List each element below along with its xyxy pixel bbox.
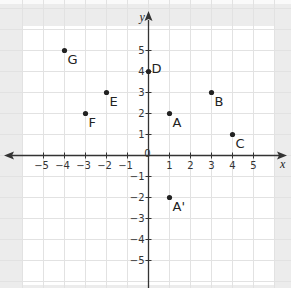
point-label: D bbox=[152, 61, 162, 76]
x-tick-label: −4 bbox=[55, 160, 70, 171]
x-tick-label: 1 bbox=[166, 160, 172, 171]
point-label: A bbox=[173, 115, 182, 130]
point-marker bbox=[209, 90, 214, 95]
point-label: C bbox=[236, 136, 245, 151]
coordinate-plane: xy −5−4−3−2−112345−5−4−3−2−1123450 ABCDE… bbox=[0, 0, 291, 288]
y-axis-label: y bbox=[139, 10, 146, 24]
point-marker bbox=[167, 111, 172, 116]
point-label: G bbox=[68, 52, 78, 67]
point-marker bbox=[104, 90, 109, 95]
y-tick-label: 4 bbox=[138, 66, 144, 77]
y-tick-label: 3 bbox=[138, 87, 144, 98]
y-tick-label: 2 bbox=[138, 108, 144, 119]
x-axis-label: x bbox=[279, 157, 286, 171]
x-tick-label: 3 bbox=[208, 160, 214, 171]
point-marker bbox=[167, 195, 172, 200]
point-label: B bbox=[215, 94, 224, 109]
x-tick-label: −1 bbox=[118, 160, 133, 171]
x-tick-label: −2 bbox=[97, 160, 112, 171]
x-tick-label: −5 bbox=[34, 160, 49, 171]
y-tick-label: −2 bbox=[130, 192, 145, 203]
point-marker bbox=[230, 132, 235, 137]
y-tick-label: −4 bbox=[130, 234, 145, 245]
x-tick-label: −3 bbox=[76, 160, 91, 171]
point-label: F bbox=[89, 115, 96, 130]
y-tick-label: 5 bbox=[138, 45, 144, 56]
point-label: A' bbox=[173, 199, 185, 214]
y-tick-label: −3 bbox=[130, 213, 145, 224]
y-tick-label: 1 bbox=[138, 129, 144, 140]
x-tick-label: 4 bbox=[229, 160, 235, 171]
x-tick-label: 2 bbox=[187, 160, 193, 171]
point-marker bbox=[146, 69, 151, 74]
point-label: E bbox=[110, 94, 118, 109]
origin-label: 0 bbox=[144, 148, 150, 159]
point-marker bbox=[83, 111, 88, 116]
x-tick-label: 5 bbox=[250, 160, 256, 171]
point-marker bbox=[62, 48, 67, 53]
y-tick-label: −1 bbox=[130, 171, 145, 182]
y-tick-label: −5 bbox=[130, 255, 145, 266]
